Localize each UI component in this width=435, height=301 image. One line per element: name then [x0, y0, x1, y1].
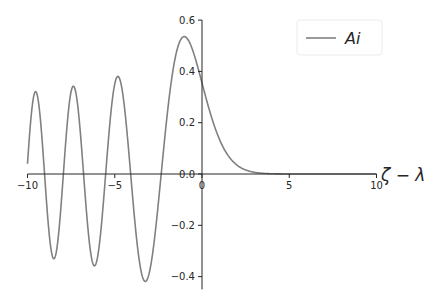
y-tick-label: 0.4	[179, 66, 195, 77]
y-tick-label: 0.0	[179, 169, 195, 180]
legend: Ai	[297, 20, 382, 55]
y-tick-label: −0.2	[171, 220, 195, 231]
y-tick-label: 0.2	[179, 117, 195, 128]
x-axis: −10−50510	[17, 174, 383, 191]
x-tick-label: −5	[107, 180, 122, 191]
x-tick-label: −10	[17, 180, 38, 191]
x-tick-label: 5	[286, 180, 292, 191]
airy-function-chart: −10−50510 0.60.40.20.0−0.2−0.4 ζ − λ Ai	[0, 0, 435, 301]
legend-label: Ai	[344, 29, 361, 48]
x-axis-label: ζ − λ	[380, 165, 425, 185]
y-tick-label: −0.4	[171, 271, 195, 282]
y-tick-label: 0.6	[179, 15, 195, 26]
